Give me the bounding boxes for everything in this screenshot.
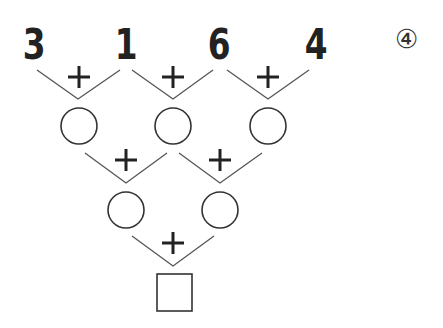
answer-circle[interactable]: [250, 108, 286, 144]
answer-circle[interactable]: [61, 108, 97, 144]
answer-circle[interactable]: [202, 192, 238, 228]
plus-icon: [115, 149, 137, 171]
answer-box[interactable]: [157, 274, 192, 311]
answer-circle[interactable]: [108, 192, 144, 228]
plus-signs: [68, 66, 279, 254]
plus-icon: [68, 66, 90, 88]
plus-icon: [162, 232, 184, 254]
plus-icon: [162, 66, 184, 88]
plus-icon: [257, 66, 279, 88]
answer-circle[interactable]: [155, 108, 191, 144]
addition-pyramid-diagram: [0, 0, 443, 328]
plus-icon: [209, 149, 231, 171]
